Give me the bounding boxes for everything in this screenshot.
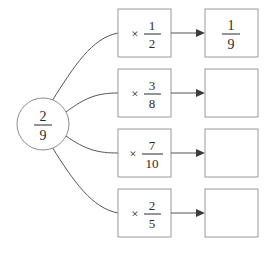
result-box-rect-3	[205, 129, 258, 177]
arrow-row-3	[171, 149, 205, 157]
operation-box-rect-4	[118, 189, 171, 237]
connector-curve-row-4	[52, 147, 118, 213]
operation-symbol-4: ×	[131, 206, 138, 221]
connector-curve-row-3	[66, 136, 118, 153]
operation-box-rect-3	[118, 129, 171, 177]
operation-symbol-2: ×	[131, 86, 138, 101]
result-box-row-2[interactable]	[205, 69, 258, 117]
result-box-rect-2	[205, 69, 258, 117]
operation-symbol-1: ×	[131, 26, 138, 41]
operation-box-row-4[interactable]: × 2 5	[118, 189, 171, 237]
operation-numerator-2: 3	[149, 78, 156, 93]
source-numerator: 2	[40, 109, 47, 124]
operation-box-row-1[interactable]: × 1 2	[118, 9, 171, 57]
operation-denominator-1: 2	[149, 36, 156, 51]
operation-box-row-2[interactable]: × 3 8	[118, 69, 171, 117]
operation-box-rect-1	[118, 9, 171, 57]
result-box-rect-4	[205, 189, 258, 237]
operation-symbol-3: ×	[129, 146, 136, 161]
row-4: × 2 5	[118, 189, 258, 237]
operation-numerator-3: 7	[149, 138, 156, 153]
arrow-row-2	[171, 89, 205, 97]
arrow-head-icon-2	[196, 89, 205, 97]
result-box-row-4[interactable]	[205, 189, 258, 237]
source-node[interactable]: 2 9	[17, 98, 69, 150]
result-numerator-1: 1	[228, 18, 235, 33]
diagram-canvas: 2 9 × 1 2 1 9	[0, 0, 273, 260]
result-denominator-1: 9	[228, 37, 235, 52]
arrow-row-4	[171, 209, 205, 217]
result-box-row-3[interactable]	[205, 129, 258, 177]
operation-denominator-3: 10	[146, 156, 159, 171]
row-2: × 3 8	[118, 69, 258, 117]
operation-numerator-4: 2	[149, 198, 156, 213]
arrow-head-icon-1	[196, 29, 205, 37]
source-denominator: 9	[40, 128, 47, 143]
operation-denominator-4: 5	[149, 216, 156, 231]
row-1: × 1 2 1 9	[118, 9, 258, 57]
connector-curve-row-2	[66, 93, 118, 112]
operation-box-rect-2	[118, 69, 171, 117]
arrow-head-icon-3	[196, 149, 205, 157]
operation-numerator-1: 1	[149, 18, 156, 33]
row-3: × 7 10	[118, 129, 258, 177]
result-box-row-1[interactable]: 1 9	[205, 9, 258, 57]
arrow-row-1	[171, 29, 205, 37]
connector-curve-row-1	[52, 33, 118, 101]
operation-denominator-2: 8	[149, 96, 156, 111]
operation-box-row-3[interactable]: × 7 10	[118, 129, 171, 177]
arrow-head-icon-4	[196, 209, 205, 217]
fraction-flow-diagram: 2 9 × 1 2 1 9	[0, 0, 273, 260]
